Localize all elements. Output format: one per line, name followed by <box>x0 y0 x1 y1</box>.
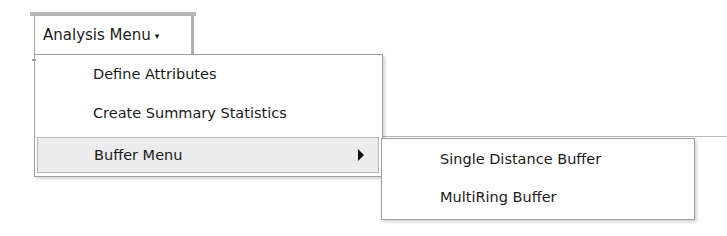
menu-item-buffer-menu[interactable]: Buffer Menu <box>37 137 379 173</box>
menu-item-label: MultiRing Buffer <box>440 189 557 205</box>
toolbar-divider <box>382 136 727 137</box>
menu-item-define-attributes[interactable]: Define Attributes <box>37 56 379 92</box>
analysis-dropdown-menu: Define Attributes Create Summary Statist… <box>34 54 383 177</box>
analysis-menu-button[interactable]: Analysis Menu ▾ <box>34 16 194 54</box>
menu-item-label: Buffer Menu <box>94 147 182 163</box>
menu-item-single-distance-buffer[interactable]: Single Distance Buffer <box>383 141 693 177</box>
menu-item-multiring-buffer[interactable]: MultiRing Buffer <box>383 179 693 215</box>
analysis-menu-label: Analysis Menu <box>43 26 151 44</box>
submenu-arrow-icon <box>358 149 364 161</box>
menu-item-label: Create Summary Statistics <box>93 105 287 121</box>
menu-item-label: Define Attributes <box>93 66 217 82</box>
buffer-submenu: Single Distance Buffer MultiRing Buffer <box>381 138 695 220</box>
dropdown-caret-icon: ▾ <box>155 31 160 41</box>
menu-item-create-summary-statistics[interactable]: Create Summary Statistics <box>37 95 379 131</box>
menu-tick <box>32 59 36 61</box>
menu-item-label: Single Distance Buffer <box>440 151 601 167</box>
